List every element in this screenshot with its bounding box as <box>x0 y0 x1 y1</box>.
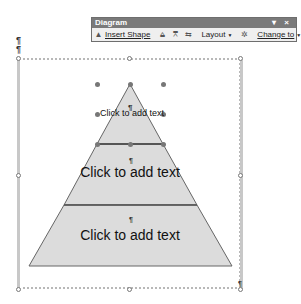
pyramid-level-1-label[interactable]: Click to add text <box>100 108 160 118</box>
shape-handle-top-right[interactable] <box>161 82 166 87</box>
shape-handle-bottom-right[interactable] <box>161 142 166 147</box>
pyramid-level-3-label[interactable]: Click to add text <box>70 227 190 243</box>
shape-handle-bottom[interactable] <box>128 142 133 147</box>
paragraph-mark: ¶ <box>129 215 133 224</box>
pyramid-diagram <box>0 0 301 304</box>
pyramid-level-2-label[interactable]: Click to add text <box>70 164 190 180</box>
shape-handle-top[interactable] <box>128 82 133 87</box>
shape-handle-top-left[interactable] <box>95 82 100 87</box>
shape-handle-bottom-left[interactable] <box>95 142 100 147</box>
